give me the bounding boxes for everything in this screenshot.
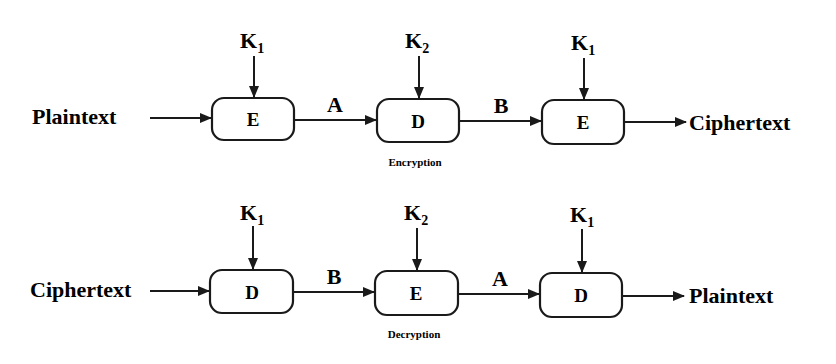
decryption-input-label: Ciphertext [30, 277, 132, 302]
key-label-1: K1 [240, 28, 264, 56]
stage-op-2: E [410, 283, 423, 304]
encryption-row: Plaintext E K1 A D K2 Encryption B E K1 … [32, 28, 791, 168]
encryption-output-label: Ciphertext [689, 110, 791, 135]
key-label-3: K1 [571, 30, 595, 58]
stage-op-2: D [411, 111, 425, 132]
stage-op-3: D [574, 285, 588, 306]
link-label-1: A [327, 92, 343, 117]
link-label-2: A [492, 266, 508, 291]
key-label-2: K2 [405, 28, 429, 56]
triple-des-diagram: Plaintext E K1 A D K2 Encryption B E K1 … [0, 0, 836, 364]
encryption-input-label: Plaintext [32, 104, 117, 129]
stage-op-3: E [577, 112, 590, 133]
stage-op-1: D [245, 282, 259, 303]
decryption-output-label: Plaintext [689, 283, 774, 308]
key-label-3: K1 [570, 202, 594, 230]
link-label-1: B [327, 264, 342, 289]
link-label-2: B [494, 93, 509, 118]
decryption-caption: Decryption [388, 328, 441, 340]
decryption-row: Ciphertext D K1 B E K2 Decryption A D K1… [30, 200, 774, 340]
key-label-1: K1 [240, 200, 264, 228]
stage-op-1: E [247, 109, 260, 130]
encryption-caption: Encryption [388, 156, 441, 168]
key-label-2: K2 [404, 200, 428, 228]
